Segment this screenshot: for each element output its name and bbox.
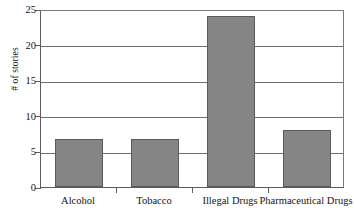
bars-layer xyxy=(41,11,343,187)
y-tick-label: 10 xyxy=(14,112,36,122)
bar-slot xyxy=(41,11,117,187)
y-tick-label: 15 xyxy=(14,76,36,86)
plot-area xyxy=(40,10,344,188)
bar-chart-figure: # of stories 0510152025 AlcoholTobaccoIl… xyxy=(0,0,354,217)
x-tick-mark xyxy=(116,188,117,193)
bar-slot xyxy=(193,11,269,187)
bar[interactable] xyxy=(207,16,256,187)
bar[interactable] xyxy=(283,130,332,187)
y-axis-title: # of stories xyxy=(8,24,22,114)
bar-slot xyxy=(269,11,345,187)
y-tick-label: 25 xyxy=(14,5,36,15)
x-category-label: Pharmaceutical Drugs xyxy=(256,194,354,207)
x-tick-mark xyxy=(268,188,269,193)
x-tick-mark xyxy=(192,188,193,193)
bar-slot xyxy=(117,11,193,187)
y-tick-label: 5 xyxy=(14,147,36,157)
bar[interactable] xyxy=(131,139,180,187)
y-tick-label: 20 xyxy=(14,41,36,51)
bar[interactable] xyxy=(55,139,104,187)
y-tick-label: 0 xyxy=(14,183,36,193)
